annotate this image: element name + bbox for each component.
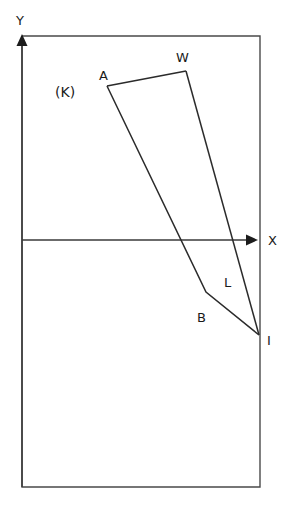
y-axis-label: Y [15, 13, 24, 28]
x-axis-label: X [268, 233, 277, 248]
point-label-b: B [197, 310, 206, 325]
point-label-i: I [267, 333, 271, 348]
edge-a-to-b-to-i [107, 86, 259, 335]
region-label-k: (K) [55, 84, 75, 100]
geometry-diagram: X Y (K) A W B L I [0, 0, 285, 512]
diagram-canvas: X Y (K) A W B L I [0, 0, 285, 512]
point-label-w: W [176, 50, 189, 65]
point-label-l: L [224, 275, 232, 290]
x-axis-arrowhead [246, 235, 258, 246]
point-label-a: A [99, 68, 108, 83]
edge-a-to-w [107, 71, 186, 86]
edge-w-to-i [186, 71, 259, 335]
plot-frame [22, 36, 260, 487]
